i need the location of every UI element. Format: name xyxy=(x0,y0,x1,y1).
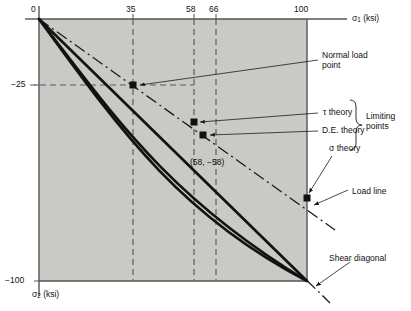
sigma-symbol: σ xyxy=(329,143,334,153)
tau-symbol: τ xyxy=(323,107,326,117)
tick-label-58: 58 xyxy=(186,4,195,14)
y-axis-units: (ksi) xyxy=(43,289,59,299)
leader-load-line xyxy=(314,190,348,205)
stress-diagram-svg xyxy=(0,0,411,311)
tau-theory-point-marker xyxy=(191,119,198,126)
normal-load-point-line1: Normal load xyxy=(322,50,368,60)
normal-load-point-marker xyxy=(130,82,137,89)
limiting-points-label: Limiting points xyxy=(366,111,395,132)
limiting-points-line2: points xyxy=(366,121,395,131)
limiting-points-line1: Limiting xyxy=(366,111,395,121)
coordinate-label-58-minus58: (58, −58) xyxy=(190,157,224,167)
tick-label-minus25: −25 xyxy=(11,79,25,89)
y-axis-title: σ2 (ksi) xyxy=(32,289,59,300)
tick-label-100: 100 xyxy=(294,4,308,14)
sigma-theory-word: theory xyxy=(337,143,361,153)
figure-canvas: 0 35 58 66 100 −25 −100 σ1 (ksi) σ2 (ksi… xyxy=(0,0,411,311)
tau-theory-word: theory xyxy=(329,107,353,117)
x-axis-subscript: 1 xyxy=(357,16,361,23)
shear-diagonal-label: Shear diagonal xyxy=(329,253,386,263)
sigma-theory-point-marker xyxy=(304,195,311,202)
leader-sigma-theory xyxy=(309,156,332,193)
tick-label-66: 66 xyxy=(209,4,218,14)
normal-load-point-line2: point xyxy=(322,60,368,70)
normal-load-point-label: Normal load point xyxy=(322,50,368,71)
load-line-label: Load line xyxy=(352,186,387,196)
x-axis-title: σ1 (ksi) xyxy=(352,13,379,24)
tick-label-35: 35 xyxy=(126,4,135,14)
y-axis-subscript: 2 xyxy=(37,292,41,299)
de-theory-label: D.E. theory xyxy=(322,125,365,135)
sigma-theory-label: σ theory xyxy=(329,143,360,153)
leader-shear-diagonal xyxy=(316,262,350,286)
de-theory-point-marker xyxy=(200,132,207,139)
x-axis-units: (ksi) xyxy=(363,13,379,23)
tau-theory-label: τ theory xyxy=(323,107,352,117)
tick-label-minus100: −100 xyxy=(5,275,24,285)
tick-label-0: 0 xyxy=(31,4,36,14)
